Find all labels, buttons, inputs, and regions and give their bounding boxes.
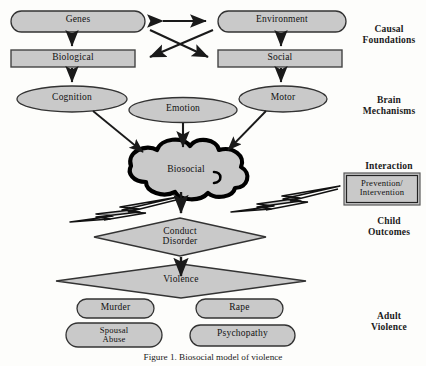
label-violence: Violence xyxy=(131,275,231,285)
label-murder: Murder xyxy=(77,303,154,313)
lightning-bolt-left xyxy=(70,197,178,222)
label-motor: Motor xyxy=(239,93,327,103)
label-prevention-line2: Intervention xyxy=(360,187,404,197)
label-conduct-line2: Disorder xyxy=(163,236,198,246)
stage-label-child-outcomes: ChildOutcomes xyxy=(352,216,426,238)
arrow-cognition-biosocial xyxy=(93,111,143,152)
label-social: Social xyxy=(218,53,342,63)
stage-label-interaction: Interaction xyxy=(352,161,426,172)
stage-label-causal-foundations: CausalFoundations xyxy=(352,24,426,46)
label-cognition: Cognition xyxy=(17,93,127,103)
label-psychopathy: Psychopathy xyxy=(190,329,295,339)
stage-label-brain-mechanisms: BrainMechanisms xyxy=(352,95,426,117)
label-environment: Environment xyxy=(218,15,346,25)
stage-label-line: Violence xyxy=(371,322,407,332)
stage-label-line: Mechanisms xyxy=(363,106,416,116)
stage-label-line: Causal xyxy=(374,24,403,34)
label-biosocial: Biosocial xyxy=(141,165,231,175)
lightning-bolt-right xyxy=(231,186,340,212)
label-emotion: Emotion xyxy=(129,104,237,114)
stage-label-line: Interaction xyxy=(365,161,413,171)
stage-label-line: Outcomes xyxy=(368,227,410,237)
biosocial-model-diagram: Genes Environment Biological Social Cogn… xyxy=(0,0,426,366)
label-genes: Genes xyxy=(11,15,145,25)
arrow-motor-biosocial xyxy=(228,111,266,150)
stage-label-line: Adult xyxy=(377,311,401,321)
stage-label-line: Child xyxy=(377,216,401,226)
label-spousal-line2: Abuse xyxy=(103,334,126,344)
stage-label-line: Brain xyxy=(377,95,401,105)
label-prevention-intervention: Prevention/ Intervention xyxy=(344,179,420,197)
stage-label-line: Foundations xyxy=(363,35,416,45)
label-conduct-disorder: Conduct Disorder xyxy=(130,227,230,247)
label-conduct-line1: Conduct xyxy=(163,226,197,236)
label-spousal-abuse: Spousal Abuse xyxy=(66,326,162,344)
label-biological: Biological xyxy=(11,53,135,63)
label-rape: Rape xyxy=(196,303,283,313)
figure-caption: Figure 1. Biosocial model of violence xyxy=(0,352,426,366)
stage-label-adult-violence: AdultViolence xyxy=(352,311,426,333)
